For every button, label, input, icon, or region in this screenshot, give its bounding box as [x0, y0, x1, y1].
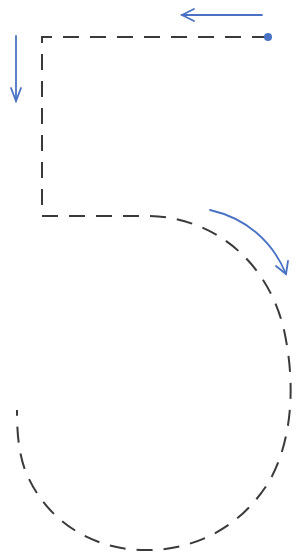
diagram-svg: [0, 0, 303, 553]
digit-five-dashed-path: [17, 37, 291, 550]
start-dot-icon: [264, 33, 272, 41]
arrow-left-icon: [182, 9, 262, 21]
arrow-curve-icon: [210, 210, 288, 274]
stroke-order-diagram: [0, 0, 303, 553]
arrow-down-icon: [11, 36, 21, 101]
